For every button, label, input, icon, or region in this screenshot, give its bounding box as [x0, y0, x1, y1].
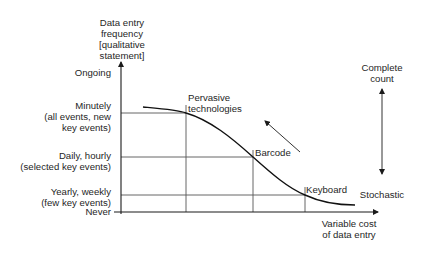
tech-label: Barcode: [255, 147, 291, 158]
tech-barcode: Barcode: [255, 147, 291, 158]
tech-label: technologies: [188, 103, 242, 114]
x-axis-title-line: of data entry: [318, 229, 380, 240]
tech-keyboard: Keyboard: [306, 184, 347, 195]
scale-label: Complete: [355, 62, 409, 73]
scale-label: Stochastic: [355, 189, 409, 200]
scale-label: count: [355, 73, 409, 84]
level-minutely: Minutely (all events, new key events): [44, 100, 111, 133]
level-daily: Daily, hourly (selected key events): [20, 150, 111, 172]
y-axis-title: Data entry frequency [qualitative statem…: [92, 17, 152, 61]
level-label: Ongoing: [75, 67, 111, 78]
level-label: Minutely: [44, 100, 111, 111]
level-label: Never: [85, 206, 111, 217]
level-label: (selected key events): [20, 161, 111, 172]
tech-label: Keyboard: [306, 184, 347, 195]
tech-pervasive: Pervasive technologies: [188, 92, 242, 114]
guide-lines: [121, 105, 305, 212]
y-axis-title-line: frequency: [92, 28, 152, 39]
level-label: (all events, new: [44, 111, 111, 122]
level-label: key events): [44, 122, 111, 133]
scale-top-label: Complete count: [355, 62, 409, 84]
level-ongoing: Ongoing: [75, 67, 111, 78]
level-label: Daily, hourly: [20, 150, 111, 161]
tech-label: Pervasive: [188, 92, 242, 103]
level-never: Never: [85, 206, 111, 217]
level-label: Yearly, weekly: [41, 186, 111, 197]
level-yearly: Yearly, weekly (few key events): [41, 186, 111, 208]
y-axis-title-line: statement]: [92, 50, 152, 61]
x-axis-title-line: Variable cost: [318, 218, 380, 229]
x-axis-title: Variable cost of data entry: [318, 218, 380, 240]
y-axis-title-line: [qualitative: [92, 39, 152, 50]
scale-bottom-label: Stochastic: [355, 189, 409, 200]
y-axis-title-line: Data entry: [92, 17, 152, 28]
